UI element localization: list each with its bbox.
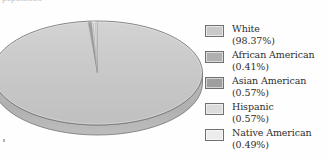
- legend-percent-white: (98.37%): [232, 35, 275, 47]
- legend-percent-hispanic: (0.57%): [232, 113, 274, 125]
- legend-percent-african-american: (0.41%): [232, 61, 315, 73]
- legend-label-african-american: African American: [232, 49, 315, 61]
- legend-text-african-american: African American (0.41%): [232, 49, 315, 72]
- legend-text-hispanic: Hispanic (0.57%): [232, 101, 274, 124]
- legend-percent-asian-american: (0.57%): [232, 87, 306, 99]
- legend-text-native-american: Native American (0.49%): [232, 127, 312, 150]
- legend-label-native-american: Native American: [232, 127, 312, 139]
- legend-item-white[interactable]: White (98.37%): [205, 23, 330, 47]
- legend-swatch-hispanic: [205, 103, 224, 115]
- legend-label-hispanic: Hispanic: [232, 101, 274, 113]
- legend: White (98.37%) African American (0.41%) …: [205, 23, 330, 153]
- pie-chart-graphic: [0, 12, 203, 152]
- legend-label-asian-american: Asian American: [232, 75, 306, 87]
- legend-swatch-native-american: [205, 129, 224, 141]
- legend-text-white: White (98.37%): [232, 23, 275, 46]
- legend-swatch-african-american: [205, 51, 224, 63]
- legend-swatch-white: [205, 25, 224, 37]
- legend-item-hispanic[interactable]: Hispanic (0.57%): [205, 101, 330, 125]
- legend-label-white: White: [232, 23, 275, 35]
- pie-slice-white: [0, 21, 203, 125]
- pie-chart-figure: population: [0, 0, 330, 161]
- legend-percent-native-american: (0.49%): [232, 139, 312, 151]
- legend-item-asian-american[interactable]: Asian American (0.57%): [205, 75, 330, 99]
- legend-item-native-american[interactable]: Native American (0.49%): [205, 127, 330, 151]
- legend-swatch-asian-american: [205, 77, 224, 89]
- legend-text-asian-american: Asian American (0.57%): [232, 75, 306, 98]
- cropped-caption-fragment: population: [2, 0, 42, 3]
- pie-svg: [0, 12, 203, 152]
- legend-item-african-american[interactable]: African American (0.41%): [205, 49, 330, 73]
